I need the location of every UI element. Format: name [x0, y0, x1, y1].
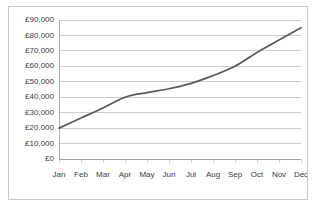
y-tick-label: £80,000 [25, 31, 54, 40]
gridlines-group [59, 20, 301, 159]
revenue-line-series [59, 28, 301, 128]
chart-plot-container: £0£10,000£20,000£30,000£40,000£50,000£60… [9, 7, 307, 199]
chart-frame: £0£10,000£20,000£30,000£40,000£50,000£60… [8, 6, 308, 200]
x-tick-label: Mar [96, 170, 110, 179]
line-chart: £0£10,000£20,000£30,000£40,000£50,000£60… [9, 7, 307, 199]
y-tick-label: £90,000 [25, 15, 54, 24]
x-tick-label: Aug [206, 170, 220, 179]
y-tick-label: £10,000 [25, 139, 54, 148]
x-tick-label: Apr [119, 170, 132, 179]
x-tick-label: Jun [163, 170, 176, 179]
y-tick-label: £60,000 [25, 61, 54, 70]
x-tick-label: Jan [53, 170, 66, 179]
y-tick-label: £20,000 [25, 123, 54, 132]
y-tick-label: £40,000 [25, 92, 54, 101]
axes-group [59, 20, 301, 159]
x-tick-label: May [139, 170, 154, 179]
x-tick-label: Feb [74, 170, 88, 179]
x-tick-label: Dec [294, 170, 307, 179]
y-tick-label: £50,000 [25, 77, 54, 86]
x-axis-tick-labels: JanFebMarAprMayJunJulAugSepOctNovDec [53, 170, 307, 179]
y-tick-label: £0 [45, 154, 54, 163]
y-axis-tick-labels: £0£10,000£20,000£30,000£40,000£50,000£60… [25, 15, 54, 163]
x-tick-label: Jul [186, 170, 196, 179]
y-tick-label: £30,000 [25, 108, 54, 117]
y-tick-label: £70,000 [25, 46, 54, 55]
x-tick-label: Sep [228, 170, 243, 179]
x-axis-tickmarks [59, 159, 301, 163]
x-tick-label: Nov [272, 170, 286, 179]
x-tick-label: Oct [251, 170, 264, 179]
